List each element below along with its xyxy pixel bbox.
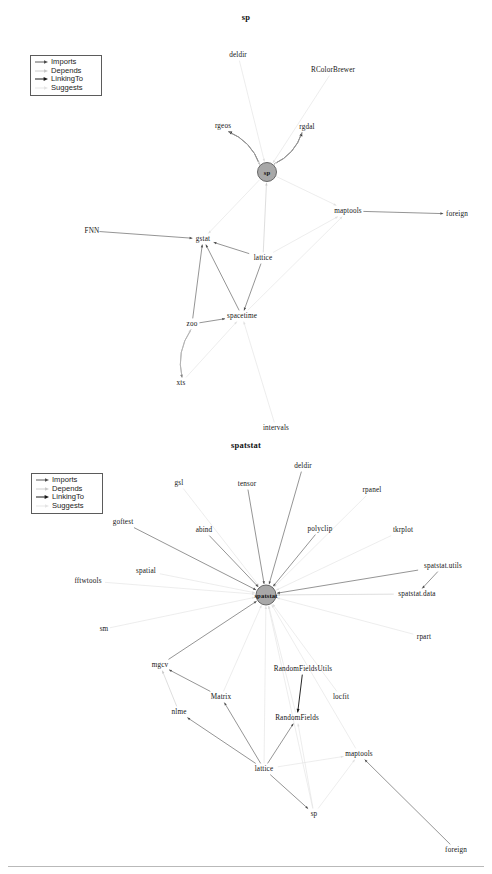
graph-node-randomfieldsutils[interactable]: RandomFieldsUtils [274, 665, 332, 673]
legend-row-suggests: Suggests [36, 502, 97, 511]
graph-node-nlme[interactable]: nlme [172, 708, 187, 716]
graph-node-maptools[interactable]: maptools [345, 750, 373, 758]
graph-node-zoo[interactable]: zoo [187, 320, 198, 328]
graph-edge [273, 76, 330, 163]
graph-edge-arrowhead [291, 724, 294, 727]
graph-edge [199, 319, 225, 323]
graph-node-rpanel[interactable]: rpanel [363, 486, 382, 494]
graph-node-spatial[interactable]: spatial [136, 567, 156, 575]
linkingto-arrow-icon [36, 493, 49, 501]
graph-node-foreign[interactable]: foreign [445, 846, 467, 854]
graph-node-tensor[interactable]: tensor [238, 480, 256, 488]
graph-edge [160, 574, 255, 593]
graph-edge [422, 572, 438, 589]
graph-node-locfit[interactable]: locfit [333, 693, 349, 701]
graph-node-foreign[interactable]: foreign [446, 210, 468, 218]
graph-edge [273, 217, 338, 253]
graph-node-xts[interactable]: xts [177, 379, 186, 387]
graph-node-polyclip[interactable]: polyclip [308, 525, 333, 533]
graph-edge [183, 489, 259, 587]
graph-edge-arrowhead [265, 183, 267, 186]
graph-edge [180, 330, 191, 378]
graph-edge [268, 606, 312, 808]
sp-legend: Imports Depends LinkingTo Suggests [30, 55, 102, 96]
graph-edge-arrowhead [214, 242, 217, 244]
graph-edge [276, 536, 391, 591]
graph-edge [270, 775, 308, 809]
graph-edge [278, 756, 344, 766]
graph-edge [186, 322, 237, 378]
graph-edge [187, 718, 255, 764]
graph-node-gstat[interactable]: gstat [196, 235, 210, 243]
graph-edge [228, 132, 259, 165]
graph-edge [269, 606, 296, 713]
graph-edge [269, 472, 301, 585]
graph-node-sp[interactable]: sp [311, 810, 318, 818]
graph-node-lattice[interactable]: lattice [254, 254, 273, 262]
depends-arrow-icon [35, 67, 48, 75]
graph-node-fftwtools[interactable]: fftwtools [74, 577, 101, 585]
graph-edge-arrowhead [188, 330, 191, 333]
graph-edge [298, 724, 313, 809]
graph-node-gsl[interactable]: gsl [175, 479, 184, 487]
graph-edge [273, 604, 337, 691]
graph-node-lattice[interactable]: lattice [255, 765, 274, 773]
graph-edge-arrowhead [269, 581, 271, 584]
footer-divider [8, 866, 484, 867]
imports-arrow-icon [35, 58, 48, 66]
graph-node-maptools[interactable]: maptools [334, 207, 362, 215]
graph-edge [248, 490, 264, 584]
graph-node-deldir[interactable]: deldir [229, 51, 247, 59]
graph-edge [110, 597, 255, 627]
graph-node-abind[interactable]: abind [196, 526, 213, 534]
graph-edge [208, 180, 259, 234]
graph-edge [277, 177, 337, 206]
graph-node-spatstat-utils[interactable]: spatstat.utils [424, 562, 462, 570]
graph-edge-arrowhead [273, 160, 276, 163]
graph-edge [214, 242, 250, 253]
graph-edge-arrowhead [162, 671, 164, 674]
graph-edge-arrowhead [265, 606, 267, 609]
graph-node-deldir[interactable]: deldir [294, 462, 312, 470]
legend-row-suggests: Suggests [35, 84, 96, 93]
graph-edge-arrowhead [258, 161, 260, 164]
graph-node-tkrplot[interactable]: tkrplot [393, 526, 413, 534]
package-dependency-figure: sp Imports Depends LinkingTo [0, 0, 492, 874]
suggests-arrow-icon [36, 502, 49, 510]
graph-node-rcolorbrewer[interactable]: RColorBrewer [311, 66, 355, 74]
spatstat-dependency-graph: spatstat Imports Depends LinkingTo [0, 440, 492, 868]
center-node-label[interactable]: spatstat [254, 592, 277, 599]
graph-edge [180, 330, 191, 378]
graph-edge [209, 536, 258, 587]
graph-node-intervals[interactable]: intervals [263, 424, 289, 432]
graph-node-goftest[interactable]: goftest [113, 518, 134, 526]
graph-edge-arrowhead [187, 718, 190, 721]
graph-node-rgdal[interactable]: rgdal [299, 123, 314, 131]
suggests-arrow-icon [35, 84, 48, 92]
graph-edge [274, 133, 302, 164]
center-node-label[interactable]: sp [264, 169, 271, 176]
graph-node-spatstat-data[interactable]: spatstat.data [398, 590, 435, 598]
graph-edge-arrowhead [222, 318, 225, 320]
graph-node-fnn[interactable]: FNN [85, 227, 100, 235]
graph-edge [277, 594, 394, 595]
graph-edge [99, 232, 192, 239]
graph-edge [263, 183, 266, 253]
graph-edge [169, 670, 210, 692]
graph-edge [239, 61, 264, 162]
graph-node-rpart[interactable]: rpart [417, 633, 431, 641]
sp-dependency-graph: sp Imports Depends LinkingTo [0, 0, 492, 440]
graph-node-spacetime[interactable]: spacetime [227, 312, 257, 320]
graph-edge [272, 605, 356, 749]
graph-edge-arrowhead [277, 594, 280, 596]
graph-node-matrix[interactable]: Matrix [211, 693, 231, 701]
graph-node-sm[interactable]: sm [100, 625, 109, 633]
graph-node-mgcv[interactable]: mgcv [152, 661, 169, 669]
graph-node-randomfields[interactable]: RandomFields [275, 714, 319, 722]
graph-edge [277, 570, 418, 593]
graph-edge [264, 606, 266, 763]
graph-edge-arrowhead [243, 322, 245, 325]
graph-node-rgeos[interactable]: rgeos [215, 122, 231, 130]
graph-edge [206, 245, 239, 311]
legend-label-suggests: Suggests [52, 502, 84, 511]
